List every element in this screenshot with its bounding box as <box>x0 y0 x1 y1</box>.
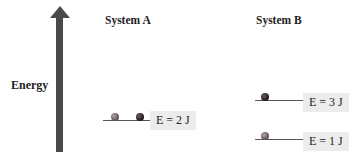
system-a-title: System A <box>105 14 151 26</box>
energy-axis-label: Energy <box>11 78 48 93</box>
system-a-level-line <box>103 120 151 121</box>
particle-icon <box>261 93 269 101</box>
system-b-upper-energy-label: E = 3 J <box>303 93 349 112</box>
system-a-energy-label: E = 2 J <box>150 111 196 130</box>
energy-arrow-icon <box>56 14 63 152</box>
system-b-title: System B <box>256 14 302 26</box>
system-b-lower-energy-label: E = 1 J <box>303 132 349 151</box>
particle-icon <box>136 113 144 121</box>
particle-icon <box>261 132 269 140</box>
particle-icon <box>111 113 119 121</box>
